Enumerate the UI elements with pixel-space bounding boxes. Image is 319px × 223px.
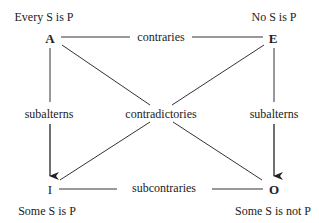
label-contradictories: contradictories	[123, 107, 198, 121]
proposition-o: Some S is not P	[233, 204, 313, 218]
corner-e: E	[267, 32, 280, 46]
label-contraries: contraries	[135, 30, 186, 44]
corner-o: O	[267, 183, 281, 197]
label-subcontraries: subcontraries	[130, 181, 198, 195]
contradictory-line-e-i-top	[172, 45, 264, 105]
label-subalterns-right: subalterns	[248, 107, 301, 121]
contradictory-line-a-o-bottom	[173, 122, 262, 180]
label-subalterns-left: subalterns	[23, 107, 76, 121]
proposition-e: No S is P	[249, 10, 298, 24]
contradictory-line-a-o-top	[62, 45, 150, 105]
proposition-a: Every S is P	[12, 10, 75, 24]
contradictory-line-e-i-bottom	[60, 122, 150, 180]
corner-a: A	[43, 32, 56, 46]
corner-i: I	[46, 183, 54, 197]
proposition-i: Some S is P	[16, 204, 78, 218]
